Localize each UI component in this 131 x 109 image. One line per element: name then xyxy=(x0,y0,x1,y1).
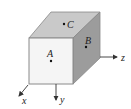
cube-diagram: C B A z y x xyxy=(0,0,131,109)
point-a-dot xyxy=(50,60,52,62)
point-c-dot xyxy=(63,23,65,25)
x-axis-label: x xyxy=(21,95,27,106)
point-b-dot xyxy=(85,46,87,48)
point-a-label: A xyxy=(46,48,54,59)
z-axis-label: z xyxy=(120,52,125,63)
point-b-label: B xyxy=(85,35,91,46)
point-c-label: C xyxy=(67,19,74,30)
y-axis-label: y xyxy=(59,94,65,105)
